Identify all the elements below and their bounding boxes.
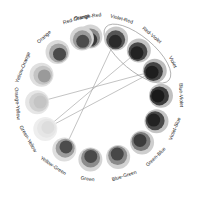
inner-core — [109, 35, 122, 48]
inner-core — [84, 150, 97, 163]
node-yellow-orange[interactable] — [30, 63, 54, 87]
chord-violet-orange-yellow — [37, 71, 155, 103]
inner-core — [133, 134, 146, 147]
inner-core — [146, 66, 159, 79]
node-red-violet[interactable] — [127, 39, 151, 63]
inner-core — [111, 148, 124, 161]
inner-core — [147, 114, 160, 127]
inner-core — [34, 96, 47, 109]
inner-core — [60, 140, 73, 153]
chord-violet-green-yellow — [45, 71, 154, 129]
label-violet-blue: Violet-Blue — [167, 116, 182, 141]
node-green-yellow[interactable] — [33, 117, 57, 141]
inner-core — [130, 46, 143, 59]
inner-core — [53, 48, 66, 61]
node-red-orange[interactable] — [70, 26, 94, 50]
label-orange-yellow: Orange-Yellow — [14, 87, 22, 120]
inner-core — [38, 69, 51, 82]
node-green[interactable] — [78, 147, 102, 171]
node-yellow-green[interactable] — [52, 137, 76, 161]
node-violet[interactable] — [143, 59, 167, 83]
node-blue-violet[interactable] — [149, 84, 173, 108]
inner-core — [151, 89, 164, 102]
node-orange[interactable] — [46, 40, 70, 64]
label-orange: Orange — [35, 29, 52, 45]
node-orange-yellow[interactable] — [25, 90, 49, 114]
label-violet-red: Violet-Red — [110, 12, 134, 24]
node-blue-green[interactable] — [106, 145, 130, 169]
node-violet-blue[interactable] — [144, 109, 168, 133]
inner-core — [41, 121, 54, 134]
label-blue-green: Blue-Green — [111, 168, 137, 182]
node-violet-red[interactable] — [104, 26, 128, 50]
label-green: Green — [80, 175, 95, 183]
color-nodes — [25, 25, 173, 172]
color-wheel-diagram: Orange-RedViolet-RedRed-VioletVioletBlue… — [0, 0, 199, 211]
label-yellow-orange: Yellow-Orange — [13, 51, 31, 84]
chord-violet-red-yellow-green — [64, 38, 116, 149]
inner-core — [76, 35, 89, 48]
label-blue-violet: Blue-Violet — [178, 83, 185, 108]
node-green-blue[interactable] — [130, 131, 154, 155]
